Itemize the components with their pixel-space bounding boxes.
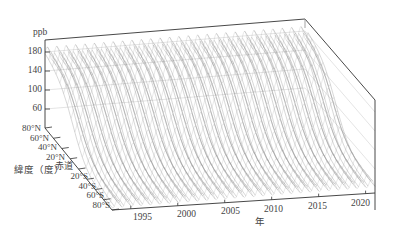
mesh-line-time (93, 152, 356, 182)
lat-tick-60s: 60°S (68, 191, 104, 200)
x-tick-2010: 2010 (264, 205, 283, 215)
mesh-line-time (82, 126, 345, 156)
z-axis-unit: ppb (33, 28, 47, 38)
z-tick-100: 100 (20, 85, 42, 95)
x-tick-2000: 2000 (177, 210, 196, 220)
z-tick-140: 140 (20, 66, 42, 76)
z-tick-180: 180 (20, 47, 42, 57)
x-axis-title: 年 (255, 218, 265, 228)
lat-tick-80s: 80°S (74, 201, 110, 210)
x-tick-1995: 1995 (133, 213, 152, 223)
z-tick-60: 60 (20, 104, 42, 114)
x-tick-2005: 2005 (221, 207, 240, 217)
x-tick-2015: 2015 (308, 202, 327, 212)
x-tick-2020: 2020 (351, 199, 370, 209)
lat-axis-title: 緯度（度） (14, 166, 64, 176)
lat-tick-40n: 40°N (21, 143, 57, 152)
lat-tick-80n: 80°N (5, 124, 41, 133)
surface-3d-chart (0, 0, 393, 238)
